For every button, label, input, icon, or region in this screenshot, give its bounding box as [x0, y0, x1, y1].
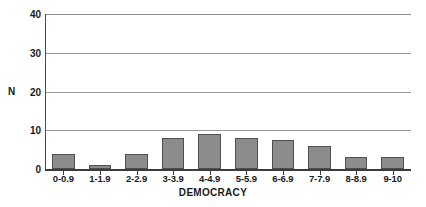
x-tick-label-4-4.9: 4-4.9 — [191, 173, 228, 184]
x-tick-label-8-8.9: 8-8.9 — [338, 173, 375, 184]
y-tick-label-20: 20 — [0, 86, 41, 97]
histogram-chart: N 010203040 0-0.91-1.92-2.93-3.94-4.95-5… — [0, 0, 426, 207]
bar-3-3.9 — [162, 138, 185, 169]
x-axis-title: DEMOCRACY — [0, 187, 426, 198]
y-tick-label-30: 30 — [0, 47, 41, 58]
y-tick-label-0: 0 — [0, 164, 41, 175]
y-tick-label-40: 40 — [0, 9, 41, 20]
bar-0-0.9 — [52, 154, 75, 170]
x-tick-label-6-6.9: 6-6.9 — [265, 173, 302, 184]
y-axis-tick-labels: 010203040 — [0, 0, 41, 207]
bar-series — [45, 14, 411, 169]
bar-6-6.9 — [272, 140, 295, 169]
x-tick-label-2-2.9: 2-2.9 — [118, 173, 155, 184]
x-tick-label-7-7.9: 7-7.9 — [301, 173, 338, 184]
x-tick-label-0-0.9: 0-0.9 — [45, 173, 82, 184]
bar-7-7.9 — [308, 146, 331, 169]
x-tick-label-1-1.9: 1-1.9 — [82, 173, 119, 184]
y-axis-line — [45, 14, 46, 170]
x-tick-label-3-3.9: 3-3.9 — [155, 173, 192, 184]
bar-2-2.9 — [125, 154, 148, 170]
bar-5-5.9 — [235, 138, 258, 169]
y-tick-label-10: 10 — [0, 125, 41, 136]
x-tick-label-9-10: 9-10 — [374, 173, 411, 184]
plot-area — [45, 14, 411, 169]
x-tick-label-5-5.9: 5-5.9 — [228, 173, 265, 184]
bar-4-4.9 — [198, 134, 221, 169]
bar-8-8.9 — [345, 157, 368, 169]
bar-9-10 — [381, 157, 404, 169]
